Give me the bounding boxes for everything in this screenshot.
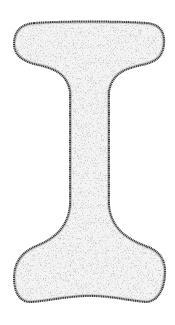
stipple-texture [0,0,175,325]
bone-shape-illustration [0,0,175,325]
figure-canvas: Stippled line drawing of an I-shaped (du… [0,0,175,325]
